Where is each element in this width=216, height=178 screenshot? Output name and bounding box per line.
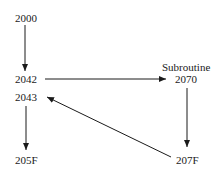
node-2042: 2042 [15, 74, 37, 85]
node-205F: 205F [15, 155, 38, 166]
node-2000: 2000 [15, 13, 37, 24]
flow-diagram: 2000 2042 2043 205F Subroutine 2070 207F [0, 0, 216, 178]
node-2070: 2070 [175, 74, 197, 85]
node-2070-title: Subroutine [162, 62, 210, 73]
edge-207F-2043 [47, 97, 171, 157]
edges-layer [0, 0, 216, 178]
node-2043: 2043 [15, 92, 37, 103]
node-207F: 207F [176, 155, 199, 166]
